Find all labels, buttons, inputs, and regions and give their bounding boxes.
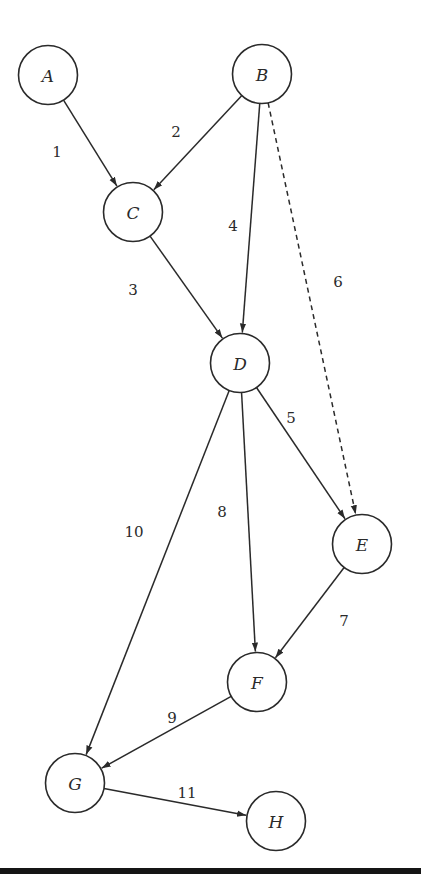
node-f: F	[228, 653, 287, 712]
node-c: C	[104, 183, 163, 242]
edge-g-h-arrow	[104, 788, 246, 815]
edge-e-f-arrow	[275, 567, 344, 657]
edge-label-6: 6	[333, 273, 343, 291]
edge-b-c-arrow	[154, 96, 242, 190]
node-label: E	[355, 535, 369, 555]
node-b: B	[233, 45, 292, 104]
node-a: A	[19, 46, 78, 105]
node-label: B	[255, 65, 269, 85]
dependency-graph: 1234567891011 ABCDEFGH	[0, 0, 421, 886]
edge-d-f-arrow	[242, 392, 256, 651]
edge-c-d-arrow	[150, 236, 222, 338]
edge-label-8: 8	[217, 503, 227, 521]
node-e: E	[333, 515, 392, 574]
edge-label-11: 11	[177, 784, 196, 802]
edge-label-2: 2	[171, 123, 181, 141]
edge-a-c-arrow	[64, 100, 117, 186]
node-label: A	[40, 66, 54, 86]
edge-d-g-arrow	[86, 390, 229, 754]
edge-label-10: 10	[124, 523, 143, 541]
edge-label-9: 9	[167, 709, 177, 727]
node-label: G	[68, 774, 82, 794]
node-label: H	[268, 812, 285, 832]
edge-d-e-arrow	[256, 387, 344, 518]
bottom-rule	[0, 868, 421, 874]
edge-label-3: 3	[128, 281, 138, 299]
edge-label-1: 1	[52, 143, 62, 161]
node-h: H	[247, 792, 306, 851]
node-g: G	[46, 754, 105, 813]
edge-label-7: 7	[339, 612, 349, 630]
edge-label-5: 5	[286, 409, 296, 427]
edge-label-4: 4	[228, 217, 238, 235]
node-label: D	[232, 354, 247, 374]
node-label: C	[126, 203, 139, 223]
edge-f-g-arrow	[102, 696, 232, 768]
edge-b-d-arrow	[242, 103, 259, 332]
edge-b-e-dashed-arrow	[268, 103, 356, 514]
nodes-layer: ABCDEFGH	[19, 45, 392, 851]
node-label: F	[250, 673, 264, 693]
node-d: D	[211, 334, 270, 393]
